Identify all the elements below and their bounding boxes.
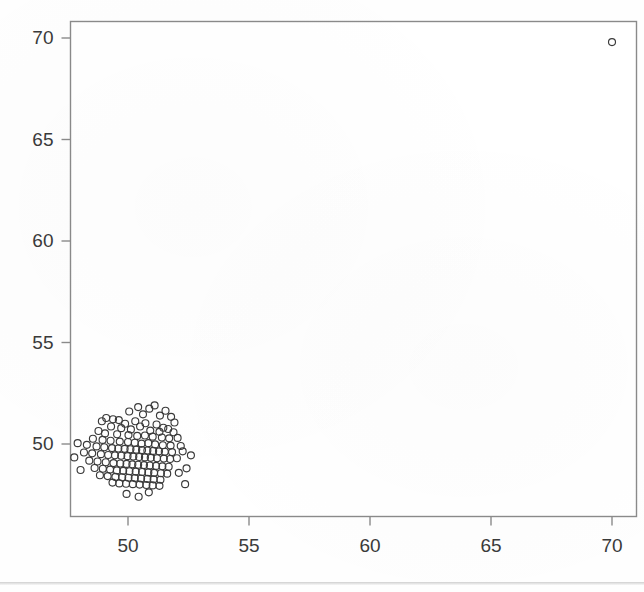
x-axis: 5055606570	[117, 517, 622, 556]
y-tick-label: 70	[32, 27, 53, 48]
plot-frame	[71, 22, 637, 517]
x-tick-label: 55	[238, 535, 259, 556]
y-tick-label: 60	[32, 230, 53, 251]
x-tick-label: 50	[117, 535, 138, 556]
y-axis: 5055606570	[32, 27, 70, 454]
y-tick-label: 65	[32, 129, 53, 150]
scatter-plot-figure: 5055606570 5055606570	[0, 0, 644, 592]
x-tick-label: 70	[601, 535, 622, 556]
y-tick-label: 50	[32, 433, 53, 454]
x-tick-label: 65	[480, 535, 501, 556]
page-edge-line	[0, 582, 644, 585]
x-tick-label: 60	[359, 535, 380, 556]
y-tick-label: 55	[32, 332, 53, 353]
plot-canvas: 5055606570 5055606570	[0, 0, 644, 592]
